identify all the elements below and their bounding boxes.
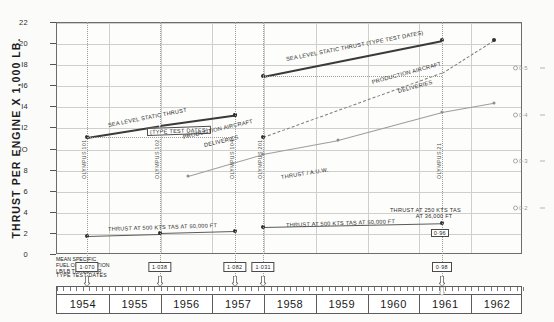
ruler-tick [245,287,246,291]
ruler-tick [63,287,64,291]
ruler-tick [199,287,200,291]
fuel-consumption-value: 1·070 [75,262,98,272]
ruler-tick [193,287,194,291]
ruler-tick [407,287,408,291]
right-axis-tick-mark [540,68,545,69]
ruler-tick [316,287,317,291]
ruler-tick [238,287,239,291]
ruler-tick [76,287,77,291]
y-axis-tick-label: I8 [10,60,28,69]
ruler-tick [148,287,149,291]
gridline-horizontal [57,107,521,108]
ruler-tick [361,287,362,291]
ruler-tick [368,287,369,291]
y-axis-tick-label: 8 [10,165,28,174]
right-axis-tick-label: 0·4 [519,112,528,118]
timeline-ruler [57,287,521,295]
year-separator [471,294,472,313]
ruler-tick [348,287,349,291]
ruler-tick [109,287,110,291]
ruler-tick [284,287,285,291]
ruler-tick [374,287,375,291]
ruler-tick [381,287,382,291]
ruler-tick [161,287,162,291]
ruler-tick [225,287,226,291]
right-axis-tick-label: 0·3 [519,158,528,164]
y-axis-tick-label: I4 [10,102,28,111]
ruler-tick [135,287,136,291]
y-axis-tick-mark [50,212,56,213]
y-axis-tick-label: 20 [10,39,28,48]
fuel-consumption-value: 0·98 [432,262,452,272]
gridline-horizontal [57,192,521,193]
gridline-vertical [161,23,162,253]
year-separator [419,294,420,313]
ruler-tick [232,287,233,291]
ruler-tick [329,287,330,291]
ruler-tick [290,287,291,291]
ruler-tick [419,287,420,291]
ruler-tick [167,287,168,291]
ruler-tick [342,287,343,291]
year-separator [316,294,317,313]
data-point-marker [187,175,190,178]
inline-value-box: 0·96 [431,229,449,237]
ruler-tick [271,287,272,291]
fuel-consumption-value: 1·082 [223,262,246,272]
data-point-marker [337,139,340,142]
ruler-tick [154,287,155,291]
ruler-tick [70,287,71,291]
ruler-tick [504,287,505,291]
fuel-consumption-value: 1·031 [251,262,274,272]
type-test-dates-caption: TYPE TEST DATES [56,272,107,278]
right-axis-tick-label: 0·2 [519,205,528,211]
ruler-tick [491,287,492,291]
ruler-tick [219,287,220,291]
gridline-vertical [212,23,213,253]
ruler-tick [471,287,472,291]
annotation-thrust-250kts: THRUST AT 250 KTS TAS [390,207,461,213]
y-axis-tick-mark [50,233,56,234]
year-label-1955: 1955 [121,298,147,310]
ruler-tick [432,287,433,291]
year-separator [368,294,369,313]
y-axis-tick-label: IO [10,144,28,153]
right-axis-tick-mark [540,207,545,208]
engine-label-olympus-21: OLYMPUS 21 [436,143,442,179]
y-axis-tick-mark [50,106,56,107]
y-axis-tick-label: 0 [10,250,28,259]
ruler-tick [400,287,401,291]
ruler-tick [174,287,175,291]
timeline-marker-arrow-icon [438,282,445,291]
annotation-thrust-250kts-line2: AT 36,000 FT [416,213,453,219]
ruler-tick [186,287,187,291]
year-label-1959: 1959 [329,298,355,310]
ruler-tick [387,287,388,291]
down-arrow-icon [231,273,238,284]
engine-label-olympus-104: OLYMPUS 104 [229,139,235,178]
ruler-tick [128,287,129,291]
ruler-tick [57,287,58,291]
gridline-horizontal [57,44,521,45]
year-label-1960: 1960 [380,298,406,310]
ruler-tick [180,287,181,291]
right-axis-tick-mark [540,114,545,115]
gridline-horizontal [57,23,521,24]
year-label-1957: 1957 [225,298,251,310]
ruler-tick [510,287,511,291]
y-axis-tick-mark [50,191,56,192]
ruler-tick [122,287,123,291]
right-axis-tick-dot [513,66,518,71]
ruler-tick [303,287,304,291]
ruler-tick [277,287,278,291]
right-axis-tick-dot [513,159,518,164]
connector-dotted [87,137,235,138]
engine-dropline [263,22,264,284]
y-axis-tick-label: I2 [10,123,28,132]
ruler-tick [264,287,265,291]
ruler-tick [251,287,252,291]
right-axis-tick-mark [540,161,545,162]
ruler-tick [206,287,207,291]
y-axis-tick-mark [50,22,56,23]
engine-label-olympus-101: OLYMPUS 101 [81,139,87,178]
